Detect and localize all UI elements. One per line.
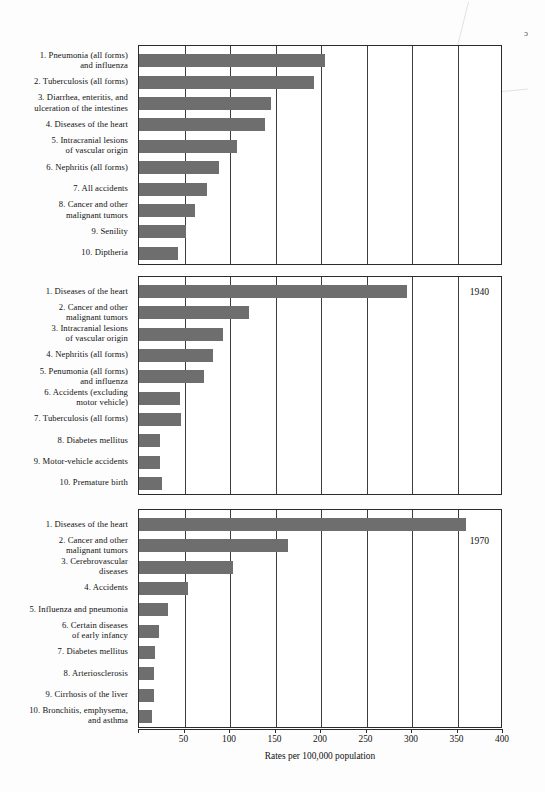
year-label-1940: 1940 [470, 286, 489, 297]
x-tick-200 [320, 729, 321, 733]
bar [139, 247, 178, 260]
category-label: 1. Diseases of the heart [0, 286, 128, 296]
gridline-200 [321, 277, 322, 494]
plot-area-3: 1970 [138, 509, 502, 728]
gridline-350 [458, 46, 459, 264]
bar [139, 328, 223, 341]
bar [139, 183, 207, 196]
category-label: 7. Tuberculosis (all forms) [0, 413, 128, 423]
plot-area-1 [138, 45, 502, 265]
bar [139, 539, 288, 552]
category-label: 2. Cancer and othermalignant tumors [0, 302, 128, 322]
bar [139, 603, 168, 616]
x-tick-label-250: 250 [358, 734, 372, 744]
bar [139, 370, 204, 383]
chart-panel-3: 1. Diseases of the heart2. Cancer and ot… [0, 509, 545, 728]
category-label: 3. Cerebrovasculardiseases [0, 556, 128, 576]
x-tick-label-350: 350 [449, 734, 463, 744]
category-label: 6. Accidents (excludingmotor vehicle) [0, 387, 128, 407]
bar [139, 97, 271, 110]
category-label: 5. Penumonia (all forms)and influenza [0, 366, 128, 386]
x-tick-label-150: 150 [267, 734, 281, 744]
category-label: 9. Senility [0, 226, 128, 236]
category-label: 2. Cancer and othermalignant tumors [0, 535, 128, 555]
bar [139, 561, 233, 574]
category-label: 1. Diseases of the heart [0, 519, 128, 529]
x-tick-50 [184, 729, 185, 733]
category-label: 7. All accidents [0, 183, 128, 193]
category-label: 5. Intracranial lesionsof vascular origi… [0, 135, 128, 155]
bar [139, 689, 154, 702]
x-axis-title: Rates per 100,000 population [138, 751, 502, 761]
category-label: 4. Nephritis (all forms) [0, 349, 128, 359]
category-label: 3. Diarrhea, enteritis, andulceration of… [0, 92, 128, 112]
x-tick-label-200: 200 [313, 734, 327, 744]
category-label: 1. Pneumonia (all forms)and influenza [0, 50, 128, 70]
bar [139, 76, 314, 89]
bar [139, 118, 265, 131]
bar [139, 140, 237, 153]
figure-page: ɔ 1. Pneumonia (all forms)and influenza2… [0, 0, 545, 792]
x-tick-300 [411, 729, 412, 733]
bar [139, 477, 162, 490]
bar [139, 710, 152, 723]
category-label: 4. Diseases of the heart [0, 119, 128, 129]
bar [139, 161, 219, 174]
gridline-200 [321, 46, 322, 264]
bar [139, 54, 325, 67]
bar [139, 518, 466, 531]
category-label: 10. Diptheria [0, 247, 128, 257]
gridline-300 [412, 277, 413, 494]
gridline-350 [458, 277, 459, 494]
chart-panel-1: 1. Pneumonia (all forms)and influenza2. … [0, 45, 545, 265]
category-label: 4. Accidents [0, 582, 128, 592]
plot-area-2: 1940 [138, 276, 502, 495]
x-tick-0 [138, 729, 139, 733]
category-label: 10. Premature birth [0, 477, 128, 487]
gridline-350 [458, 510, 459, 727]
category-label: 8. Arteriosclerosis [0, 668, 128, 678]
x-tick-150 [275, 729, 276, 733]
x-tick-label-400: 400 [495, 734, 509, 744]
bar [139, 582, 188, 595]
category-label: 2. Tuberculosis (all forms) [0, 76, 128, 86]
bar [139, 285, 407, 298]
x-tick-100 [229, 729, 230, 733]
category-label: 10. Bronchitis, emphysema,and asthma [0, 705, 128, 725]
bar [139, 204, 195, 217]
x-tick-label-300: 300 [404, 734, 418, 744]
category-label: 5. Influenza and pneumonia [0, 604, 128, 614]
category-label: 8. Diabetes mellitus [0, 435, 128, 445]
gridline-250 [367, 510, 368, 727]
category-label: 7. Diabetes mellitus [0, 646, 128, 656]
x-tick-label-100: 100 [222, 734, 236, 744]
chart-panel-2: 1. Diseases of the heart2. Cancer and ot… [0, 276, 545, 495]
category-label: 8. Cancer and othermalignant tumors [0, 199, 128, 219]
bar [139, 225, 186, 238]
gridline-300 [412, 510, 413, 727]
bar [139, 646, 155, 659]
bar [139, 392, 180, 405]
category-label: 6. Certain diseasesof early infancy [0, 620, 128, 640]
gridline-250 [367, 277, 368, 494]
bar [139, 625, 159, 638]
bar [139, 349, 213, 362]
gridline-250 [367, 46, 368, 264]
bar [139, 306, 249, 319]
gridline-300 [412, 46, 413, 264]
x-tick-label-50: 50 [179, 734, 188, 744]
x-tick-250 [366, 729, 367, 733]
gridline-150 [276, 277, 277, 494]
gridline-200 [321, 510, 322, 727]
bar [139, 413, 181, 426]
x-tick-350 [457, 729, 458, 733]
category-label: 9. Motor-vehicle accidents [0, 456, 128, 466]
category-label: 3. Intracranial lesionsof vascular origi… [0, 323, 128, 343]
category-label-column-2: 1. Diseases of the heart2. Cancer and ot… [0, 276, 133, 495]
x-tick-400 [502, 729, 503, 733]
category-label-column-3: 1. Diseases of the heart2. Cancer and ot… [0, 509, 133, 728]
bar [139, 456, 160, 469]
bar [139, 434, 160, 447]
category-label-column-1: 1. Pneumonia (all forms)and influenza2. … [0, 45, 133, 265]
year-label-1970: 1970 [470, 535, 489, 546]
